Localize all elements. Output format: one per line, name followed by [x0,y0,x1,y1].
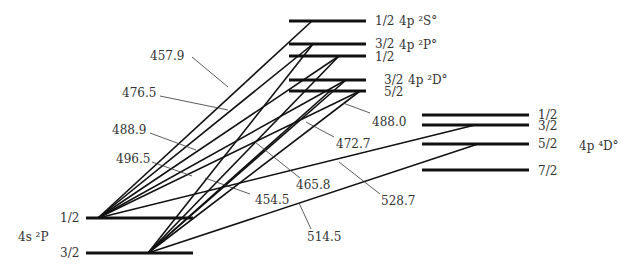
transition-line [148,91,330,253]
term-label: 4p ²S° [399,14,437,28]
j-label: 3/2 [538,119,557,133]
leader-line [343,103,370,113]
wavelength-label: 457.9 [150,49,184,63]
term-label: 4s ²P [18,230,49,244]
leader-line [255,142,300,178]
j-label: 7/2 [538,164,557,178]
transition-line [98,21,312,218]
diagram-canvas: 1/24p ²S°3/21/24p ²P°3/25/24p ²D°1/23/25… [0,0,631,272]
wavelength-label: 488.0 [372,115,406,129]
wavelength-label: 454.5 [255,193,289,207]
wavelength-label: 472.7 [336,137,370,151]
term-label: 4p ²D° [408,73,448,87]
j-label: 3/2 [60,246,79,260]
leader-line [192,57,228,87]
j-label: 5/2 [538,137,557,151]
j-label: 1/2 [60,211,79,225]
leader-line [160,96,228,110]
wavelength-label: 476.5 [122,86,156,100]
leader-line [150,133,196,150]
term-label: 4p ⁴D° [579,139,619,153]
j-label: 3/2 [375,37,394,51]
term-label: 4p ²P° [399,38,437,52]
wavelength-label: 496.5 [116,152,150,166]
energy-level-diagram: 1/24p ²S°3/21/24p ²P°3/25/24p ²D°1/23/25… [0,0,631,272]
j-label: 1/2 [375,14,394,28]
j-label: 1/2 [375,50,394,64]
wavelength-label: 465.8 [296,178,330,192]
j-label: 5/2 [384,85,403,99]
wavelength-label: 514.5 [307,230,341,244]
wavelength-label: 528.7 [381,194,415,208]
leader-line [299,203,311,229]
wavelength-label: 488.9 [112,123,146,137]
